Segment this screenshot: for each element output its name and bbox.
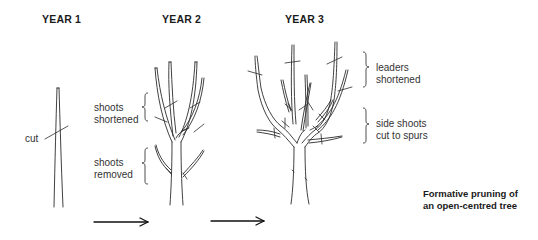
- year-3-tree: [248, 42, 352, 204]
- year-1-whip: [45, 88, 68, 207]
- arrow-year3: [211, 217, 264, 225]
- pruning-drawing: [0, 0, 538, 240]
- brace-shoots-removed: [142, 148, 148, 184]
- brace-leaders-shortened: [363, 52, 369, 87]
- year-2-tree: [155, 62, 204, 205]
- year-1-cut-mark: [45, 126, 68, 139]
- brace-side-shoots: [363, 108, 369, 143]
- arrow-year2-to-year3: [94, 218, 148, 226]
- brace-shoots-shortened: [142, 93, 148, 121]
- progression-arrows: [94, 217, 264, 226]
